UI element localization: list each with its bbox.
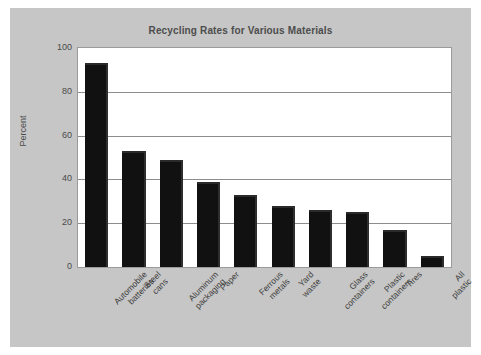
x-tick-label: All plastic xyxy=(443,270,473,300)
x-tick-label: Ferrous metals xyxy=(258,270,292,304)
chart-title: Recycling Rates for Various Materials xyxy=(10,25,471,36)
x-tick-label: Paper xyxy=(219,270,242,293)
x-tick-label: Aluminum packaging xyxy=(186,270,227,311)
y-tick-0: 0 xyxy=(46,261,72,271)
y-tick-80: 80 xyxy=(46,86,72,96)
bar[interactable] xyxy=(160,160,183,267)
bar[interactable] xyxy=(309,210,332,267)
bar-slot xyxy=(78,48,115,267)
bar-slot xyxy=(190,48,227,267)
bar[interactable] xyxy=(346,212,369,267)
plot-area xyxy=(77,47,452,268)
x-tick-label: Glass containers xyxy=(335,270,376,311)
bar-slot xyxy=(302,48,339,267)
bar[interactable] xyxy=(85,63,108,267)
bar[interactable] xyxy=(197,182,220,267)
y-tick-100: 100 xyxy=(46,42,72,52)
y-axis-label: Percent xyxy=(18,96,28,166)
bar-slot xyxy=(414,48,451,267)
bar-slot xyxy=(227,48,264,267)
y-tick-20: 20 xyxy=(46,217,72,227)
x-tick-label: Yard waste xyxy=(293,270,322,299)
x-tick-label: Plastic containers xyxy=(373,270,414,311)
y-tick-60: 60 xyxy=(46,130,72,140)
bar-slot xyxy=(376,48,413,267)
y-tick-40: 40 xyxy=(46,173,72,183)
x-axis-tick-labels: Automobile batteriesSteel cansAluminum p… xyxy=(77,266,450,346)
chart-figure: Recycling Rates for Various Materials Pe… xyxy=(10,8,471,347)
bar[interactable] xyxy=(122,151,145,267)
bar[interactable] xyxy=(383,230,406,267)
bar-slot xyxy=(153,48,190,267)
bar-slot xyxy=(339,48,376,267)
bar-series xyxy=(78,48,451,267)
bar-slot xyxy=(265,48,302,267)
bar-slot xyxy=(115,48,152,267)
bar[interactable] xyxy=(272,206,295,267)
bar[interactable] xyxy=(234,195,257,267)
y-axis-tick-labels: 020406080100 xyxy=(46,47,72,266)
